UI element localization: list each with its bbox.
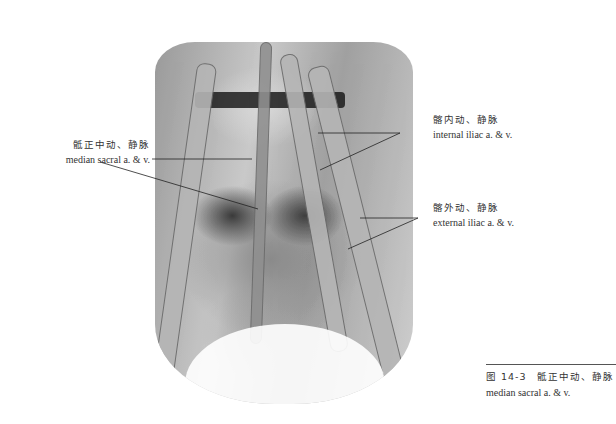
label-external-iliac-en: external iliac a. & v. [433,215,514,230]
figure-number: 图 14-3 [486,371,527,382]
label-median-sacral: 骶正中动、静脉 median sacral a. & v. [10,137,150,167]
figure-caption: 图 14-3骶正中动、静脉 median sacral a. & v. [486,364,616,401]
label-median-sacral-zh: 骶正中动、静脉 [10,137,150,152]
leader-external-iliac-2 [348,218,418,249]
label-external-iliac-zh: 髂外动、静脉 [433,200,514,215]
figure-caption-zh: 骶正中动、静脉 [537,371,614,382]
label-median-sacral-en: median sacral a. & v. [10,152,150,167]
leader-median-sacral-2 [100,162,258,209]
leader-internal-iliac-2 [320,133,400,170]
leader-lines [0,0,616,424]
figure-caption-en: median sacral a. & v. [486,385,616,401]
figure-caption-zh-line: 图 14-3骶正中动、静脉 [486,369,616,385]
label-external-iliac: 髂外动、静脉 external iliac a. & v. [433,200,514,230]
label-internal-iliac-en: internal iliac a. & v. [433,127,512,142]
label-internal-iliac-zh: 髂内动、静脉 [433,112,512,127]
label-internal-iliac: 髂内动、静脉 internal iliac a. & v. [433,112,512,142]
